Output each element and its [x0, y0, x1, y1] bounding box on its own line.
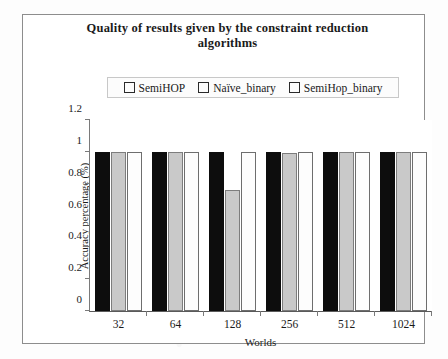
legend-label-semihop: SemiHOP [139, 82, 186, 94]
y-axis-tick-label: 0 [77, 293, 83, 305]
chart-frame: Quality of results given by the constrai… [22, 14, 425, 344]
bar [266, 152, 281, 311]
bar-group: 1024 [375, 120, 432, 311]
x-axis-tick-label: 1024 [392, 318, 415, 330]
y-axis-tick-label: 0.2 [68, 261, 82, 273]
chart-legend: SemiHOP Naïve_binary SemiHop_binary [107, 77, 399, 98]
bar [323, 152, 338, 311]
bar [412, 152, 427, 311]
legend-item-semihop-binary: SemiHop_binary [289, 82, 383, 94]
chart-title-line-2: algorithms [53, 36, 402, 51]
legend-swatch-semihop-binary [289, 82, 300, 93]
legend-swatch-semihop [124, 82, 135, 93]
bar [111, 152, 126, 311]
y-axis-tick-label: 0.6 [68, 198, 82, 210]
bar [209, 152, 224, 311]
legend-swatch-naive-binary [198, 82, 209, 93]
bar-group: 128 [204, 120, 261, 311]
bar [282, 153, 297, 311]
plot-wrapper: Accuracy percentage (%) 00.20.40.60.811.… [89, 120, 432, 312]
legend-label-semihop-binary: SemiHop_binary [304, 82, 383, 94]
bar-group: 32 [90, 120, 147, 311]
bar [152, 152, 167, 311]
plot-area: 00.20.40.60.811.2 32641282565121024 [89, 120, 432, 312]
x-axis-tick-label: 128 [224, 318, 241, 330]
bar [380, 152, 395, 311]
chart-title: Quality of results given by the constrai… [53, 21, 402, 51]
bar [339, 152, 354, 311]
y-axis-tick-label: 0.8 [68, 166, 82, 178]
y-axis-tick-label: 0.4 [68, 229, 82, 241]
x-axis-tick-label: 512 [338, 318, 355, 330]
legend-label-naive-binary: Naïve_binary [213, 82, 276, 94]
x-axis-tick-label: 32 [113, 318, 125, 330]
bar [396, 152, 411, 311]
bar [95, 152, 110, 311]
x-axis-tick-label: 256 [281, 318, 298, 330]
bar-group: 512 [318, 120, 375, 311]
bar [184, 152, 199, 311]
scanned-page: Quality of results given by the constrai… [0, 0, 448, 359]
bar [355, 152, 370, 311]
bar-group: 64 [147, 120, 204, 311]
legend-item-naive-binary: Naïve_binary [198, 82, 276, 94]
bar-groups: 32641282565121024 [90, 120, 432, 311]
y-axis-tick-label: 1.2 [68, 102, 82, 114]
bar [241, 152, 256, 311]
bar [127, 152, 142, 311]
y-axis-tick-label: 1 [77, 134, 83, 146]
bar [298, 152, 313, 311]
bar-group: 256 [261, 120, 318, 311]
legend-item-semihop: SemiHOP [124, 82, 186, 94]
bar [225, 190, 240, 311]
x-axis-tick-label: 64 [170, 318, 182, 330]
chart-title-line-1: Quality of results given by the constrai… [53, 21, 402, 36]
bar [168, 152, 183, 311]
x-axis-title: Worlds [89, 336, 432, 348]
